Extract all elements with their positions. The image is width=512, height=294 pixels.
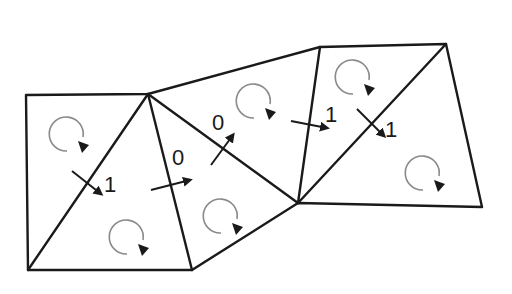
edge-labels: 1 0 0 1 1 bbox=[104, 102, 397, 197]
edge-label-B-G: 0 bbox=[212, 110, 224, 135]
clockwise-rotation-icon bbox=[203, 199, 243, 235]
clockwise-rotation-icon bbox=[109, 220, 149, 256]
clockwise-rotation-icon bbox=[236, 84, 276, 120]
edge-label-F-G: 1 bbox=[385, 117, 397, 142]
clockwise-rotation-icon bbox=[405, 156, 445, 192]
edge-label-B-D: 0 bbox=[172, 145, 184, 170]
flow-arrow-B-G bbox=[211, 135, 233, 165]
triangle-mesh-diagram: 1 0 0 1 1 bbox=[0, 0, 512, 294]
mesh-edges bbox=[26, 44, 482, 270]
edge-label-E-G: 1 bbox=[325, 102, 337, 127]
flow-arrow-F-G bbox=[357, 109, 384, 136]
edge-label-B-C: 1 bbox=[104, 172, 116, 197]
edge-B-C bbox=[28, 94, 148, 270]
flow-arrow-B-C bbox=[72, 171, 101, 194]
clockwise-rotation-icon bbox=[49, 117, 89, 153]
clockwise-rotation-icon bbox=[335, 60, 375, 96]
rotation-icons bbox=[49, 60, 445, 256]
